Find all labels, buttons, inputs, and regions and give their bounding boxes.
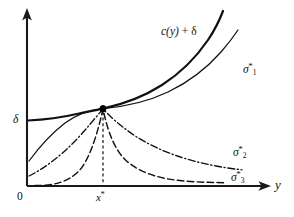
label-cost-plus-delta: c(y) + δ <box>161 26 197 38</box>
origin-label: 0 <box>17 191 23 203</box>
x-axis-tick-label-x-star: x* <box>96 192 105 203</box>
label-sigma-3: σ*3 <box>231 172 244 184</box>
label-sigma-1: σ*1 <box>243 64 256 76</box>
label-sigma-2-sub: 2 <box>243 151 247 160</box>
intersection-dot-marker <box>100 106 106 112</box>
diagram-svg <box>0 0 294 217</box>
curve-sigma-3 <box>35 109 224 186</box>
label-sigma-2: σ*2 <box>233 147 246 159</box>
x-axis-label-y: y <box>275 178 281 191</box>
curve-sigma-2 <box>29 109 242 176</box>
label-cost-function: c(y) <box>161 25 179 37</box>
label-sigma-3-sub: 3 <box>241 176 245 185</box>
figure-canvas: c(y) + δ σ*1 σ*2 σ*3 δ 0 x* y <box>0 0 294 217</box>
curve-sigma-1 <box>29 30 238 161</box>
y-axis-tick-label-delta: δ <box>13 114 18 126</box>
label-sigma-1-sub: 1 <box>253 68 257 77</box>
x-star-superscript: * <box>100 189 104 199</box>
label-cost-plus-sign: + <box>179 25 191 37</box>
label-cost-delta: δ <box>191 25 196 37</box>
